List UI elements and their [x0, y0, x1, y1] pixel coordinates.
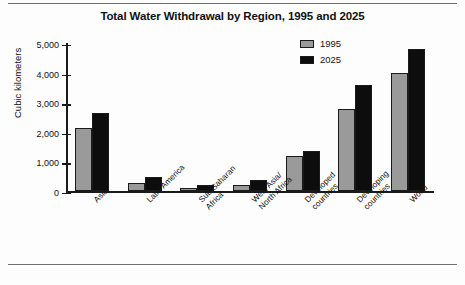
- x-axis-category: Developed countries: [276, 196, 329, 266]
- plot-area: 01,0002,0003,0004,0005,000: [66, 45, 434, 193]
- bar-group: [119, 43, 172, 191]
- bar-group: [329, 43, 382, 191]
- y-axis-tick-label: 2,000: [36, 129, 59, 139]
- y-axis-tick: [62, 193, 71, 194]
- y-axis-tick-label: 4,000: [36, 70, 59, 80]
- bar-1995: [391, 73, 408, 191]
- x-axis-category: World: [381, 196, 434, 266]
- y-axis-tick-label: 3,000: [36, 99, 59, 109]
- y-axis-title: Cubic kilometers: [12, 48, 23, 118]
- bar-2025: [92, 113, 109, 191]
- top-divider-rule: [8, 3, 457, 4]
- bar-1995: [75, 128, 92, 192]
- x-axis-category: Asia: [66, 196, 119, 266]
- bottom-divider-rule: [8, 264, 457, 265]
- x-axis-category: Developing countries: [329, 196, 382, 266]
- bar-2025: [408, 49, 425, 191]
- chart-figure: Total Water Withdrawal by Region, 1995 a…: [0, 0, 465, 285]
- bar-group: [66, 43, 119, 191]
- bar-2025: [355, 85, 372, 192]
- y-axis-tick-label: 5,000: [36, 40, 59, 50]
- x-axis-category-labels: AsiaLatin AmericaSub-Saharan AfricaWest …: [66, 196, 434, 266]
- bar-group: [276, 43, 329, 191]
- x-axis-category: Latin America: [119, 196, 172, 266]
- y-axis-tick-label: 0: [54, 188, 59, 198]
- bar-1995: [180, 188, 197, 192]
- x-axis-category: Sub-Saharan Africa: [171, 196, 224, 266]
- bar-groups: [66, 43, 434, 191]
- chart-title: Total Water Withdrawal by Region, 1995 a…: [0, 10, 465, 22]
- y-axis-tick-label: 1,000: [36, 158, 59, 168]
- bar-1995: [338, 109, 355, 192]
- bar-group: [381, 43, 434, 191]
- bar-1995: [128, 183, 145, 192]
- x-axis-category: West Asia/ North Africa: [224, 196, 277, 266]
